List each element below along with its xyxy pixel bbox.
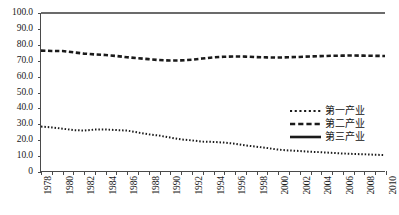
series-line [41,51,385,61]
chart-figure: 010.020.030.040.050.060.070.080.090.0100… [0,0,399,215]
y-tick-label: 70.0 [17,56,33,66]
x-tick-mark [386,171,387,175]
legend-swatch-solid-icon [289,131,322,143]
y-tick-mark [38,93,42,94]
legend-label-primary: 第一产业 [322,106,365,116]
y-tick-label: 0 [28,167,33,177]
legend-item-secondary: 第二产业 [289,117,393,130]
x-tick-mark [354,171,355,175]
figure-caption [0,206,399,215]
x-tick-mark [181,171,182,175]
x-tick-label: 2002 [303,176,313,195]
y-tick-label: 50.0 [17,88,33,98]
legend-swatch-dotted-icon [289,105,322,117]
x-tick-mark [289,171,290,175]
y-tick-mark [38,13,42,14]
x-tick-mark [127,171,128,175]
legend-label-tertiary: 第三产业 [322,132,365,142]
x-tick-mark [192,171,193,175]
x-tick-mark [149,171,150,175]
x-tick-mark [343,171,344,175]
y-tick-mark [38,77,42,78]
legend-item-primary: 第一产业 [289,104,393,117]
y-tick-label: 40.0 [17,104,33,114]
x-tick-label: 1980 [66,176,76,195]
x-tick-mark [321,171,322,175]
x-tick-mark [52,171,53,175]
x-tick-label: 1986 [130,176,140,195]
x-tick-mark [300,171,301,175]
series-canvas [41,13,385,171]
x-tick-mark [106,171,107,175]
x-tick-label: 1994 [217,176,227,195]
x-tick-label: 2000 [281,176,291,195]
y-tick-label: 30.0 [17,120,33,130]
x-tick-mark [364,171,365,175]
y-tick-label: 60.0 [17,72,33,82]
x-tick-label: 1988 [152,176,162,195]
x-tick-label: 2006 [346,176,356,195]
x-tick-mark [138,171,139,175]
x-tick-mark [73,171,74,175]
x-tick-mark [224,171,225,175]
x-tick-label: 1984 [109,176,119,195]
y-tick-label: 10.0 [17,151,33,161]
x-tick-mark [170,171,171,175]
x-tick-mark [246,171,247,175]
y-axis: 010.020.030.040.050.060.070.080.090.0100… [0,0,37,215]
x-tick-mark [116,171,117,175]
legend-swatch-dashed-icon [289,118,322,130]
x-tick-mark [203,171,204,175]
y-tick-label: 100.0 [12,8,33,18]
x-tick-mark [84,171,85,175]
x-tick-label: 2010 [389,176,399,195]
x-tick-label: 1978 [44,176,54,195]
x-tick-mark [375,171,376,175]
x-tick-label: 2008 [367,176,377,195]
y-tick-mark [38,156,42,157]
y-tick-mark [38,140,42,141]
x-tick-mark [214,171,215,175]
x-tick-mark [160,171,161,175]
x-tick-mark [235,171,236,175]
y-tick-label: 90.0 [17,24,33,34]
x-tick-mark [95,171,96,175]
x-tick-mark [278,171,279,175]
x-tick-mark [332,171,333,175]
x-tick-label: 1982 [87,176,97,195]
y-tick-mark [38,45,42,46]
x-tick-mark [267,171,268,175]
legend-item-tertiary: 第三产业 [289,130,393,143]
x-tick-mark [41,171,42,175]
y-tick-mark [38,61,42,62]
legend-label-secondary: 第二产业 [322,119,365,129]
plot-area [40,13,385,172]
y-tick-mark [38,29,42,30]
x-tick-mark [63,171,64,175]
x-tick-mark [311,171,312,175]
y-tick-mark [38,108,42,109]
x-tick-label: 1992 [195,176,205,195]
chart-legend: 第一产业 第二产业 第三产业 [289,104,393,143]
x-tick-mark [257,171,258,175]
x-axis: 1978198019821984198619881990199219941996… [40,176,385,206]
x-tick-label: 1996 [238,176,248,195]
y-tick-label: 20.0 [17,135,33,145]
x-tick-label: 2004 [324,176,334,195]
x-tick-label: 1990 [173,176,183,195]
y-tick-mark [38,124,42,125]
x-tick-label: 1998 [260,176,270,195]
y-tick-label: 80.0 [17,40,33,50]
